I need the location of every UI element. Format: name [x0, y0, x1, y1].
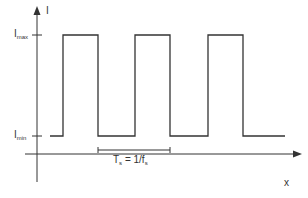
x-axis-label: x — [284, 178, 289, 188]
imin-label: Imin — [14, 130, 26, 141]
square-wave-line — [50, 35, 285, 136]
x-axis-arrow-icon — [293, 151, 302, 158]
y-axis-arrow-icon — [34, 6, 41, 15]
period-label: Ts = 1/fs — [113, 155, 148, 166]
y-axis-label: I — [46, 6, 49, 16]
imax-label: Imax — [14, 29, 28, 40]
square-wave-diagram — [0, 0, 308, 198]
